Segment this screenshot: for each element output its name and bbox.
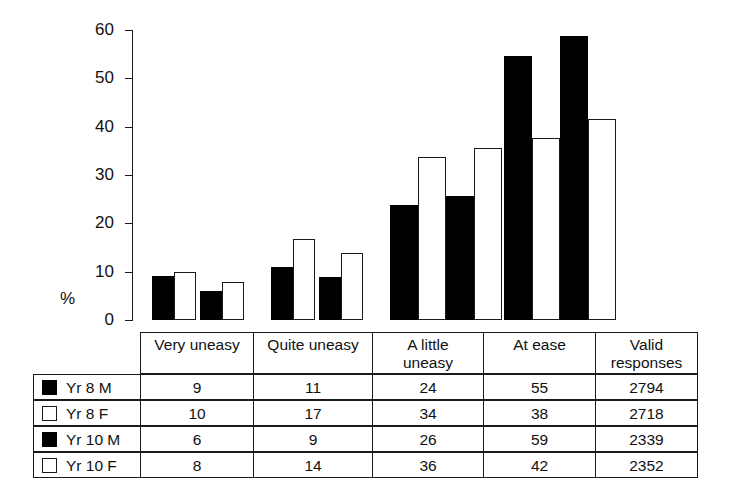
table-cell: 17 [253, 400, 373, 426]
table-cell: 59 [483, 426, 596, 452]
table-header-cell: Quite uneasy [253, 332, 373, 374]
hollow-square-icon [42, 458, 57, 473]
table-cell: 11 [253, 374, 373, 400]
series-label: Yr 10 F [66, 457, 117, 474]
table-cell: 10 [140, 400, 254, 426]
series-label: Yr 8 M [66, 379, 112, 396]
bar-chart-figure: 6050403020100 % Very uneasyQuite uneasyA… [0, 0, 734, 496]
series-label: Yr 10 M [66, 431, 120, 448]
table-cell: 9 [140, 374, 254, 400]
table-cell: 2718 [595, 400, 698, 426]
table-cell: 34 [372, 400, 484, 426]
table-header-text-line2: responses [611, 354, 683, 372]
table-header-text: A little [403, 336, 453, 354]
table-cell: 2352 [595, 452, 698, 478]
table-cell: 38 [483, 400, 596, 426]
filled-square-icon [42, 380, 57, 395]
table-cell: 36 [372, 452, 484, 478]
legend-cell: Yr 10 M [33, 426, 141, 452]
table-cell: 26 [372, 426, 484, 452]
table-cell: 2794 [595, 374, 698, 400]
hollow-square-icon [42, 406, 57, 421]
table-cell: 42 [483, 452, 596, 478]
table-header-text-line2: uneasy [403, 354, 453, 372]
legend-cell: Yr 8 F [33, 400, 141, 426]
table-header-text: Very uneasy [154, 336, 239, 354]
data-table: Very uneasyQuite uneasyA littleuneasyAt … [0, 0, 734, 496]
legend-cell: Yr 8 M [33, 374, 141, 400]
table-cell: 8 [140, 452, 254, 478]
table-header-cell: At ease [483, 332, 596, 374]
table-header-text: At ease [513, 336, 566, 354]
table-header-text: Valid [611, 336, 683, 354]
table-cell: 9 [253, 426, 373, 452]
table-header-cell: A littleuneasy [372, 332, 484, 374]
table-cell: 6 [140, 426, 254, 452]
table-cell: 2339 [595, 426, 698, 452]
table-cell: 24 [372, 374, 484, 400]
table-header-text: Quite uneasy [267, 336, 358, 354]
table-cell: 14 [253, 452, 373, 478]
table-header-cell: Very uneasy [140, 332, 254, 374]
series-label: Yr 8 F [66, 405, 108, 422]
table-header-cell: Validresponses [595, 332, 698, 374]
legend-cell: Yr 10 F [33, 452, 141, 478]
filled-square-icon [42, 432, 57, 447]
table-cell: 55 [483, 374, 596, 400]
